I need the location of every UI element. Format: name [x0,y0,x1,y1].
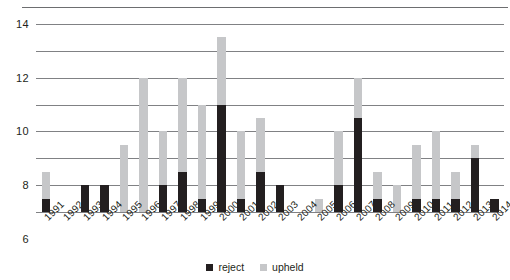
bar-segment-upheld [451,172,460,199]
y-tick-label: 14 [16,18,29,30]
bar-segment-upheld [471,145,480,158]
y-tick-label: 10 [16,125,29,137]
bar-segment-upheld [354,78,363,118]
chart-legend: rejectupheld [0,261,510,273]
bar-segment-upheld [139,78,148,212]
plot-area: 02468101214 [36,24,504,212]
x-axis-labels: 1991199219931994199519961997199819992000… [36,215,504,260]
bar-group [178,78,187,212]
bar-segment-reject [354,118,363,212]
legend-label: upheld [272,261,304,273]
bar-group [42,172,51,212]
legend-item-reject[interactable]: reject [206,261,244,273]
bar-segment-reject [217,105,226,212]
bar-group [432,131,441,212]
y-tick-label: 12 [16,72,29,84]
legend-item-upheld[interactable]: upheld [260,261,304,273]
bar-segment-upheld [412,145,421,199]
bar-segment-upheld [373,172,382,199]
bar-segment-upheld [198,105,207,199]
bar-group [354,78,363,212]
bar-group [334,131,343,212]
y-tick-label: 6 [22,233,29,245]
bar-group [139,78,148,212]
bar-segment-upheld [237,131,246,198]
bar-chart: 02468101214 1991199219931994199519961997… [0,0,510,280]
bar-group [159,131,168,212]
bar-group [198,105,207,212]
bar-segment-upheld [159,131,168,185]
legend-label: reject [218,261,244,273]
bar-segment-upheld [334,131,343,185]
bar-segment-upheld [42,172,51,199]
bar-group [256,118,265,212]
bar-segment-upheld [432,131,441,198]
legend-swatch-icon [260,264,267,271]
legend-swatch-icon [206,264,213,271]
bar-series-container [36,24,504,212]
bar-segment-upheld [178,78,187,172]
bar-group [217,37,226,212]
bar-segment-upheld [256,118,265,172]
bar-group [237,131,246,212]
y-tick-label: 8 [22,179,29,191]
top-rule [22,7,508,8]
bar-segment-upheld [217,37,226,104]
